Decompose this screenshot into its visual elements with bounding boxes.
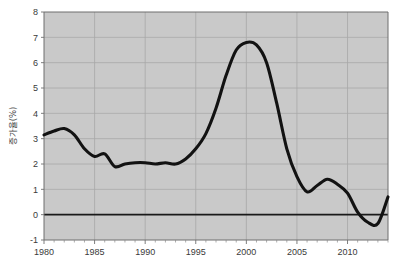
y-tick-label: 3: [33, 134, 38, 144]
plot-background: [44, 12, 388, 240]
x-tick-label: 2005: [287, 247, 307, 257]
y-tick-label-group: -1012345678: [30, 7, 38, 245]
y-tick-label: 6: [33, 58, 38, 68]
x-tick-label: 2010: [338, 247, 358, 257]
y-tick-label: -1: [30, 235, 38, 245]
x-tick-label: 2000: [236, 247, 256, 257]
line-chart: -1012345678 1980198519901995200020052010…: [0, 0, 396, 269]
y-tick-label: 8: [33, 7, 38, 17]
x-tick-label: 1990: [135, 247, 155, 257]
y-tick-label: 1: [33, 185, 38, 195]
y-tick-label: 5: [33, 83, 38, 93]
y-tick-label: 4: [33, 109, 38, 119]
x-tick-label: 1980: [34, 247, 54, 257]
y-tick-label: 7: [33, 33, 38, 43]
y-tick-label: 2: [33, 159, 38, 169]
x-tick-label-group: 1980198519901995200020052010: [34, 247, 358, 257]
y-tick-label: 0: [33, 210, 38, 220]
x-tick-group: [44, 240, 388, 244]
x-tick-label: 1995: [186, 247, 206, 257]
x-tick-label: 1985: [85, 247, 105, 257]
y-axis-title: 증가율(%): [8, 107, 18, 146]
footer-caption: [0, 261, 396, 269]
chart-container: -1012345678 1980198519901995200020052010…: [0, 0, 396, 269]
